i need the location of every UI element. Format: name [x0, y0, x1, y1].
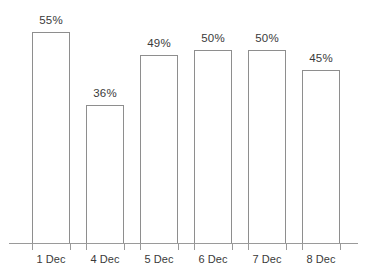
x-axis-tick [86, 244, 87, 250]
x-axis-tick [232, 244, 233, 250]
x-axis-label-7-dec: 7 Dec [238, 253, 296, 266]
plot-area: 55% 36% 49% 50% 50% 45% 1 Dec 4 De [0, 0, 367, 278]
x-axis-tick [340, 244, 341, 250]
x-axis-tick [32, 244, 33, 250]
bar-value-5-dec: 49% [140, 37, 178, 50]
bar-value-6-dec: 50% [194, 32, 232, 45]
x-axis-tick [70, 244, 71, 250]
x-axis-tick [302, 244, 303, 250]
bar-chart: 55% 36% 49% 50% 50% 45% 1 Dec 4 De [0, 0, 367, 278]
bar-5-dec [140, 55, 178, 244]
bar-value-7-dec: 50% [248, 32, 286, 45]
x-axis-tick [194, 244, 195, 250]
x-axis-line [9, 243, 358, 244]
bar-4-dec [86, 105, 124, 244]
bar-7-dec [248, 50, 286, 244]
x-axis-tick [286, 244, 287, 250]
x-axis-label-4-dec: 4 Dec [76, 253, 134, 266]
x-axis-tick [178, 244, 179, 250]
bar-value-4-dec: 36% [86, 87, 124, 100]
x-axis-tick [124, 244, 125, 250]
x-axis-tick [248, 244, 249, 250]
x-axis-label-5-dec: 5 Dec [130, 253, 188, 266]
bar-1-dec [32, 32, 70, 244]
x-axis-label-8-dec: 8 Dec [292, 253, 350, 266]
x-axis-label-1-dec: 1 Dec [22, 253, 80, 266]
x-axis-label-6-dec: 6 Dec [184, 253, 242, 266]
bar-value-8-dec: 45% [302, 52, 340, 65]
bar-value-1-dec: 55% [32, 14, 70, 27]
bar-6-dec [194, 50, 232, 244]
bar-8-dec [302, 70, 340, 244]
x-axis-tick [140, 244, 141, 250]
